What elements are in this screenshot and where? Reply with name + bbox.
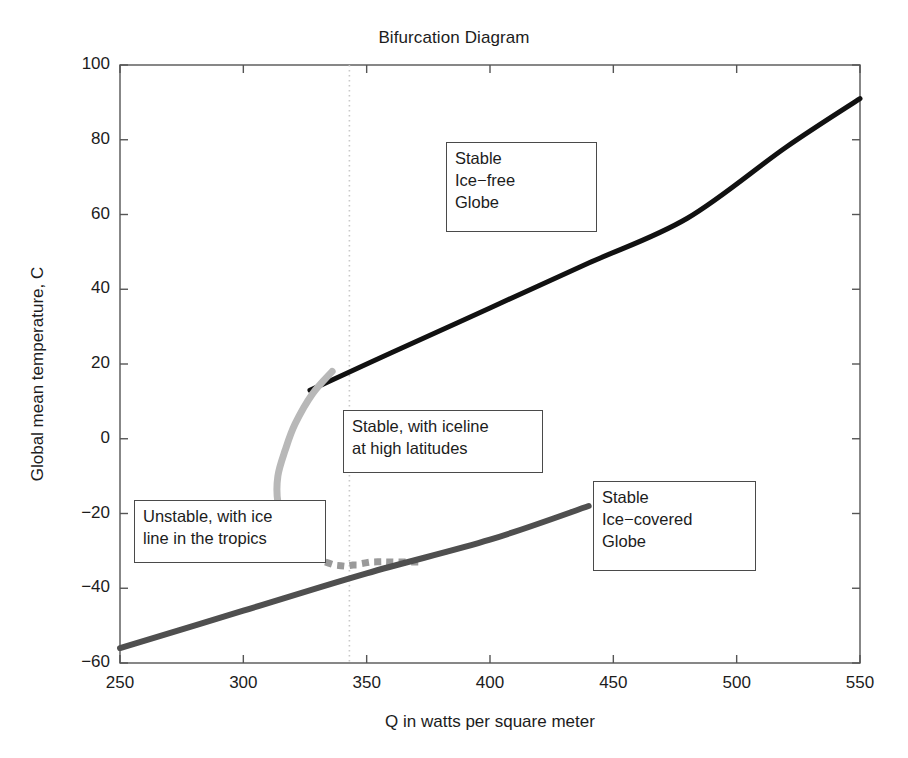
y-tick-label: 60: [54, 204, 110, 224]
y-tick-label: 100: [54, 54, 110, 74]
x-tick-label: 550: [825, 673, 895, 693]
bifurcation-diagram-figure: Bifurcation Diagram Global mean temperat…: [0, 0, 908, 758]
y-tick-label: 20: [54, 353, 110, 373]
x-tick-label: 250: [85, 673, 155, 693]
annotation-unstable-tropics: Unstable, with ice line in the tropics: [134, 500, 326, 563]
annotation-stable-ice-covered: Stable Ice−covered Globe: [593, 481, 756, 571]
y-tick-label: 80: [54, 129, 110, 149]
x-tick-label: 350: [332, 673, 402, 693]
y-tick-label: −20: [54, 503, 110, 523]
annotation-stable-iceline: Stable, with iceline at high latitudes: [343, 410, 543, 473]
plot-canvas: [0, 0, 908, 758]
x-tick-label: 300: [208, 673, 278, 693]
x-tick-label: 400: [455, 673, 525, 693]
y-tick-label: 0: [54, 428, 110, 448]
annotation-stable-ice-free: Stable Ice−free Globe: [446, 142, 597, 232]
x-tick-label: 450: [578, 673, 648, 693]
y-tick-label: −60: [54, 652, 110, 672]
y-tick-label: −40: [54, 577, 110, 597]
x-tick-label: 500: [702, 673, 772, 693]
y-tick-label: 40: [54, 278, 110, 298]
